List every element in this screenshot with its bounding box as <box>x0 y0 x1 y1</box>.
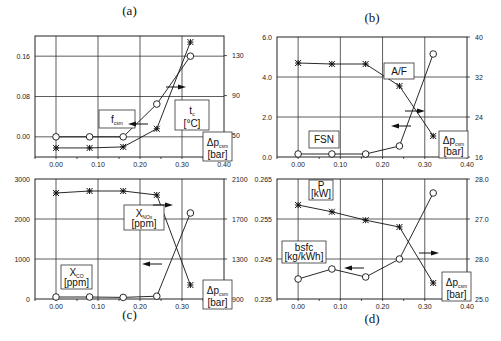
left-tick-label: 0.235 <box>254 296 272 303</box>
svg-text:[kg/kWh]: [kg/kWh] <box>285 251 324 262</box>
data-point <box>430 190 437 197</box>
right-series-label: P[kW] <box>309 180 333 200</box>
svg-text:[ppm]: [ppm] <box>131 218 156 229</box>
data-point <box>396 256 403 263</box>
data-point <box>53 134 60 141</box>
svg-text:[bar]: [bar] <box>207 297 227 308</box>
right-tick-label: 1300 <box>232 256 248 263</box>
right-tick-label: 27.0 <box>475 216 489 223</box>
left-tick-label: 0 <box>26 296 30 303</box>
svg-text:FSN: FSN <box>314 134 334 145</box>
right-tick-label: 28.0 <box>475 176 489 183</box>
chart-panel-b: (b)0.000.100.200.300.400.02.04.06.016243… <box>262 10 483 168</box>
x-tick-label: 0.10 <box>334 161 348 168</box>
right-axis-arrow-icon <box>419 251 439 256</box>
svg-text:[kW]: [kW] <box>311 188 331 199</box>
x-tick-label: 0.40 <box>460 303 474 310</box>
right-tick-label: 25.0 <box>475 296 489 303</box>
plot-frame <box>277 179 467 299</box>
data-point <box>329 266 336 273</box>
right-tick-label: 90 <box>232 92 240 99</box>
data-point <box>187 210 194 217</box>
x-tick-label: 0.10 <box>91 303 105 310</box>
left-series-label: FSN <box>309 131 339 148</box>
x-axis-label: Δpcsm[bar] <box>439 131 468 158</box>
left-tick-label: 0.00 <box>16 133 30 140</box>
data-point <box>187 53 194 60</box>
left-tick-label: 2.0 <box>262 114 272 121</box>
x-tick-label: 0.00 <box>291 161 305 168</box>
left-axis-arrow-icon <box>391 124 411 129</box>
svg-text:[bar]: [bar] <box>446 289 466 300</box>
left-tick-label: 0.245 <box>254 256 272 263</box>
x-tick-label: 0.30 <box>175 161 189 168</box>
data-point <box>120 294 127 301</box>
panel-title: (d) <box>364 311 379 326</box>
chart-panel-a: (a)0.000.100.200.300.400.000.080.1650901… <box>16 3 243 168</box>
left-series-label: XCO[ppm] <box>61 265 92 289</box>
left-axis-arrow-icon <box>142 262 162 267</box>
data-point <box>329 151 336 158</box>
data-point <box>295 276 302 283</box>
left-tick-label: 2000 <box>14 216 30 223</box>
left-tick-label: 3000 <box>14 176 30 183</box>
data-point <box>362 151 369 158</box>
svg-text:[°C]: [°C] <box>184 118 201 129</box>
right-tick-label: 32 <box>475 74 483 81</box>
series-a-f <box>295 60 436 139</box>
right-tick-label: 130 <box>232 52 244 59</box>
right-tick-label: 1700 <box>232 216 248 223</box>
right-tick-label: 16 <box>475 154 483 161</box>
left-tick-label: 6.0 <box>262 34 272 41</box>
right-tick-label: 24 <box>475 114 483 121</box>
left-tick-label: 1000 <box>14 256 30 263</box>
x-tick-label: 0.10 <box>334 303 348 310</box>
left-tick-label: 4.0 <box>262 74 272 81</box>
x-tick-label: 0.30 <box>418 161 432 168</box>
left-series-label: bsfc[kg/kWh] <box>282 241 326 263</box>
x-axis-label: Δpcsm[bar] <box>203 132 232 161</box>
x-tick-label: 0.00 <box>291 303 305 310</box>
x-tick-label: 0.40 <box>460 161 474 168</box>
x-tick-label: 0.00 <box>49 303 63 310</box>
svg-text:[ppm]: [ppm] <box>64 277 89 288</box>
left-tick-label: 0.265 <box>254 176 272 183</box>
x-axis-label: Δpcsm[bar] <box>442 272 471 301</box>
data-point <box>295 151 302 158</box>
data-point <box>430 51 437 58</box>
data-point <box>154 293 161 300</box>
series-bsfc <box>295 190 437 283</box>
left-axis-arrow-icon <box>344 266 364 271</box>
x-tick-label: 0.30 <box>418 303 432 310</box>
data-point <box>154 101 161 108</box>
data-point <box>53 294 60 301</box>
figure: (a)0.000.100.200.300.400.000.080.1650901… <box>0 0 501 341</box>
left-series-label: fcsm <box>99 110 135 128</box>
x-tick-label: 0.10 <box>91 161 105 168</box>
svg-text:A/F: A/F <box>391 66 407 77</box>
x-tick-label: 0.20 <box>376 303 390 310</box>
svg-text:[bar]: [bar] <box>207 149 227 160</box>
right-tick-label: 28.0 <box>475 256 489 263</box>
data-point <box>362 274 369 281</box>
right-series-label: XNOx[ppm] <box>124 205 164 230</box>
panel-title: (a) <box>122 3 136 18</box>
x-tick-label: 0.20 <box>133 161 147 168</box>
right-series-label: tc[°C] <box>175 100 209 130</box>
svg-text:[bar]: [bar] <box>443 146 463 157</box>
x-tick-label: 0.20 <box>133 303 147 310</box>
x-tick-label: 0.20 <box>376 161 390 168</box>
plot-frame <box>277 37 467 157</box>
chart-panel-c: (c)0.000.100.200.300.4001000200030009001… <box>14 176 247 323</box>
x-tick-label: 0.30 <box>175 303 189 310</box>
right-tick-label: 50 <box>232 132 240 139</box>
chart-panel-d: (d)0.000.100.200.300.400.2350.2450.2550.… <box>254 176 488 327</box>
left-tick-label: 0.0 <box>262 154 272 161</box>
data-point <box>86 294 93 301</box>
data-point <box>86 134 93 141</box>
right-tick-label: 40 <box>475 34 483 41</box>
x-tick-label: 0.00 <box>49 161 63 168</box>
x-axis-label: Δpcsm[bar] <box>203 280 232 309</box>
left-tick-label: 0.16 <box>16 53 30 60</box>
data-point <box>396 143 403 150</box>
